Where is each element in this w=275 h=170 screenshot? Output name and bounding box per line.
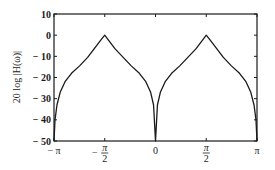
x-tick-numerator: π — [204, 142, 210, 153]
y-axis-ticks: 100− 10− 20− 30− 40− 50 — [33, 9, 257, 147]
x-tick-label: 0 — [153, 145, 158, 156]
x-tick-denominator: 2 — [204, 153, 209, 164]
y-tick-label: − 30 — [33, 93, 51, 104]
x-tick-label: − π — [47, 145, 60, 156]
y-tick-label: − 40 — [33, 114, 51, 125]
y-tick-label: − 20 — [33, 72, 51, 83]
y-tick-label: 10 — [41, 9, 51, 20]
x-tick-label: π — [254, 145, 259, 156]
chart: 100− 10− 20− 30− 40− 50 − π−π20π2π 20 lo… — [0, 0, 275, 170]
y-axis-label: 20 log |H(ω)| — [11, 51, 23, 103]
y-tick-label: − 10 — [33, 51, 51, 62]
magnitude-response-curve — [54, 35, 257, 141]
x-tick-label-fraction: −π2 — [92, 142, 108, 164]
y-tick-label: 0 — [46, 30, 51, 41]
plot-frame — [54, 14, 257, 141]
axes-box — [54, 14, 257, 141]
x-tick-label-fraction: π2 — [203, 142, 210, 164]
x-tick-denominator: 2 — [102, 153, 107, 164]
x-tick-numerator: π — [102, 142, 108, 153]
x-tick-sign: − — [92, 147, 98, 158]
